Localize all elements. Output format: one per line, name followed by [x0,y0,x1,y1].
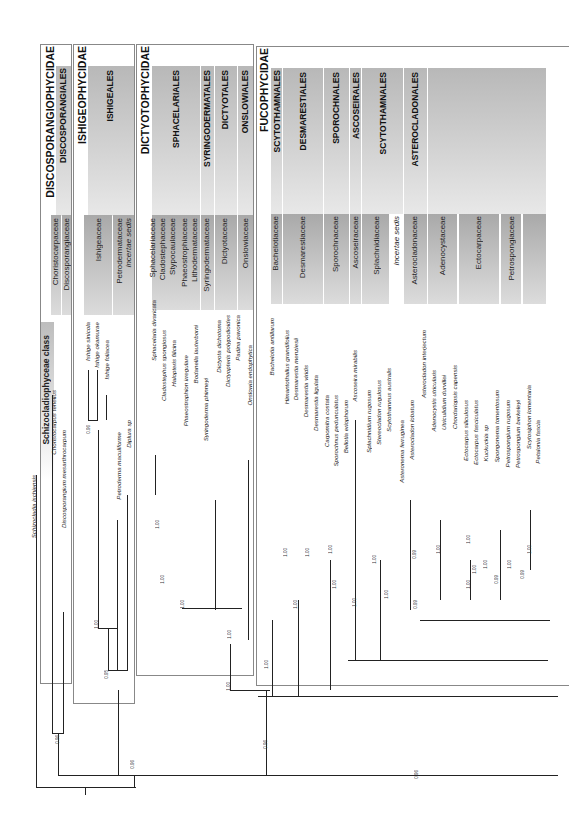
taxon-label: Splachnidium rugosum [365,390,372,453]
support-value: 0.99 [494,575,499,584]
order-label: ASTEROCLADONALES [410,72,420,166]
order-label: SPHACELARIALES [171,70,181,148]
support-value: 1.00 [328,545,333,554]
support-value: 1.00 [94,620,99,629]
taxon-label: Scytosiphon lomentaria [525,385,532,449]
support-value: 1.00 [352,598,357,607]
support-value: 0.96 [130,760,135,769]
taxon-label: Onslowia endophytica [246,345,253,406]
taxon-label: Himantothallus grandifolius [283,330,290,404]
taxon-label: Petalonia fascia [534,420,541,464]
taxon-label: Stereocladon rugulosus [375,380,382,445]
family-label: Dictyotaceae [220,218,229,264]
support-value: 1.00 [466,580,471,589]
order-label: SYRINGODERMATALES [202,70,212,167]
support-value: 1.00 [155,520,160,529]
taxon-label: Ishige sinicola [84,322,91,361]
taxon-label: Desmarestia menziesii [292,338,299,400]
taxon-label: Bodanella lauterborni [192,325,199,383]
family-label: Adenocystaceae [438,216,447,275]
taxon-label: Petrospongium berkeleyi [514,400,521,468]
support-value: 1.00 [436,545,441,554]
support-value: 1.00 [226,682,231,691]
order-label: DISCOSPORANGIALES [58,68,68,163]
family-label: incertae sedis [392,216,401,265]
taxon-label: Bachelotia antillarum [268,318,275,375]
family-label: Sphacelariaceae [148,218,157,278]
taxon-label: Dictyopteris polypodioides [224,315,231,387]
support-value: 0.96 [55,735,60,744]
order-label: ASCOSEIRALES [351,72,361,139]
order-label: SPOROCHNALES [331,72,341,144]
family-label: Choristocarpaceae [51,218,60,285]
family-label: Phaeostrophiaceae [180,218,189,287]
support-value: 0.99 [413,600,418,609]
taxon-label: Syringoderma phinneyi [202,378,209,441]
taxon-label: Petrospongium rugosum [504,400,511,467]
subclass-label: FUCOPHYCIDAE [258,48,270,132]
family-label: Bachelotiaceae [271,216,280,271]
taxon-label: Ishige okamurae [93,322,100,368]
support-value: 1.00 [466,535,471,544]
taxon-label: Ishige foliacea [103,340,110,380]
taxon-label: Dictyota dichotoma [215,320,222,373]
subclass-label: ISHIGEOPHYCIDAE [76,46,88,144]
taxon-label: Padina pavonica [234,315,241,361]
support-value: 1.00 [372,555,377,564]
family-label: Sporochnaceae [331,216,340,272]
family-label: Asterocladonaceae [410,216,419,285]
taxon-label: Scytothamnus australis [385,368,392,432]
order-label: DESMARESTIALES [298,72,308,150]
support-value: 0.96 [263,740,268,749]
order-label: ISHIGEALES [105,70,115,121]
support-value: 1.00 [527,545,532,554]
taxon-label: Cladostephus spongiosus [160,330,167,401]
support-value: 0.95 [104,670,109,679]
taxon-label: Carpomitra costata [323,395,330,447]
support-value: 1.00 [483,560,488,569]
support-value: 0.99 [412,550,417,559]
taxon-label: Diplura sp [125,420,132,448]
taxon-label: Adenocystis utricularis [430,370,437,432]
support-value: 1.00 [472,565,477,574]
family-label: incertae sedis [124,218,133,267]
taxon-label: Ectocarpus siliculosus [462,400,469,461]
taxon-label: Asterocladon interjectum [420,330,427,398]
taxon-label: Ascoseira mirabilis [351,350,358,402]
family-label: Splachnidiaceae [372,216,381,275]
subclass-label: DISCOSPORANGIOPHYCIDAE [44,46,56,198]
support-value: 1.00 [180,600,185,609]
family-label: Lithodermataceae [190,218,199,282]
order-label: SCYTOTHAMNALES [378,72,388,155]
taxon-label: Discosporangium mesarthrocarpum [60,430,67,528]
support-value: 1.00 [283,548,288,557]
support-value: 1.00 [384,590,389,599]
taxon-label: Phaeostrophion irregulare [182,355,189,426]
taxon-label: Sphacelaria divaricata [150,300,157,361]
support-value: 0.99 [520,570,525,579]
family-band [523,214,546,304]
family-label: Stypocaulaceae [168,218,177,275]
family-label: Onslowiaceae [241,218,250,268]
support-value: 0.96 [414,770,419,779]
order-label: ONSLOWIALES [240,70,250,133]
family-label: Ectocarpaceae [474,216,483,269]
order-label: DICTYOTALES [220,70,230,129]
taxon-label: Asteronema ferruginea [398,420,405,483]
taxon-label: Halopteris filicina [170,340,177,387]
taxon-label: Bellotia eriophorum [342,400,349,453]
support-value: 1.00 [507,560,512,569]
taxon-label: Sporochnus pedunculatus [332,395,339,467]
family-label: Petrodermataceae [115,218,124,284]
taxon-label: Spongonema tomentosum [493,390,500,463]
taxon-label: Desmarestia ligulata [312,375,319,431]
support-value: 0.96 [86,425,91,434]
order-band [428,68,546,214]
taxon-label: Kuckuckia sp [482,425,489,461]
taxon-label: Petroderma maculiforme [115,432,122,500]
family-label: Cladostephaceae [158,218,167,280]
family-label: Ascoseiraceae [351,216,360,268]
support-value: 1.00 [160,575,165,584]
taxon-label: Utriculidium durvillei [440,375,447,430]
family-label: Petrospongiaceae [507,216,516,281]
